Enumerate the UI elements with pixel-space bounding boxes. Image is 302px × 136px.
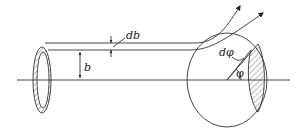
db-dimension <box>111 36 125 57</box>
phi-label: φ <box>236 67 244 80</box>
trajectory-inner <box>48 13 263 50</box>
db-label: db <box>126 29 140 42</box>
b-label: b <box>84 61 91 74</box>
dphi-label: dφ <box>219 46 234 59</box>
dphi-leader <box>232 57 244 60</box>
scattering-diagram: db b dφ φ <box>0 0 302 136</box>
trajectory-outer <box>45 6 240 43</box>
solid-angle-strip <box>248 44 264 112</box>
